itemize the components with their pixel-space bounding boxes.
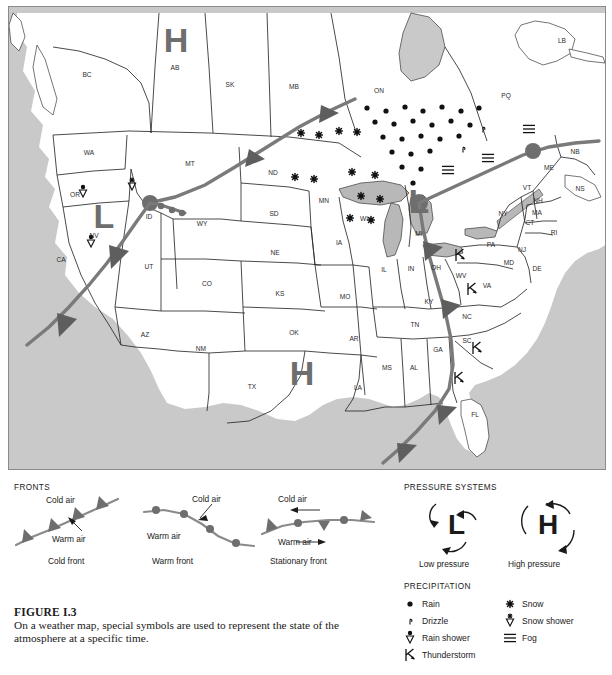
stationary-front-warm-air-label: Warm air (278, 537, 312, 547)
region-label-nm: NM (196, 345, 206, 352)
stationary-front-cold-air-label: Cold air (278, 494, 307, 504)
region-label-mb: MB (289, 83, 299, 90)
region-label-ks: KS (276, 290, 285, 297)
rain-symbol (407, 601, 412, 606)
precipitation-heading: PRECIPITATION (404, 582, 471, 591)
rain-symbol (372, 119, 377, 124)
region-label-on: ON (374, 87, 384, 94)
rain-symbol (408, 151, 413, 156)
region-label-mi: MI (415, 230, 422, 237)
region-label-wa: WA (84, 149, 95, 156)
region-label-mo: MO (340, 293, 351, 300)
region-label-or: OR (70, 191, 80, 198)
warm-front-caption: Warm front (152, 556, 193, 566)
snow_shower-symbol (506, 614, 513, 626)
figure-caption-block: FIGURE I.3 On a weather map, special sym… (14, 606, 386, 646)
snow-symbol (372, 172, 379, 179)
figure-label: FIGURE I.3 (14, 606, 386, 618)
rain-symbol (418, 166, 423, 171)
precip-key-label-rain: Rain (422, 599, 440, 609)
pressure-heading: PRESSURE SYSTEMS (404, 483, 497, 492)
rain-symbol (476, 105, 481, 110)
region-label-ab: AB (171, 64, 180, 71)
stationary-front-diagram (256, 498, 382, 556)
snow-symbol (377, 196, 384, 203)
region-label-wi: WI (360, 215, 368, 222)
region-label-ma: MA (532, 209, 542, 216)
region-label-nd: ND (268, 169, 278, 176)
cold-front-warm-air-label: Warm air (52, 534, 86, 544)
region-label-pa: PA (487, 241, 496, 248)
high-pressure-caption: High pressure (508, 559, 560, 569)
rain_shower-symbol (406, 631, 413, 643)
region-label-pq: PQ (501, 92, 511, 100)
map-canvas: HHLL BCABSKMBONPQLBNBNSMEVTNHMACTRINYPAN… (9, 7, 605, 469)
region-label-nc: NC (462, 313, 472, 320)
drizzle-symbol (410, 619, 412, 624)
region-label-il: IL (381, 266, 387, 273)
fronts-heading: FRONTS (14, 483, 50, 492)
region-label-ns: NS (575, 185, 585, 192)
cold-front-cold-air-label: Cold air (46, 495, 75, 505)
rain-symbol (439, 104, 444, 109)
low-pressure-diagram: L (418, 496, 490, 558)
region-label-nb: NB (570, 148, 580, 155)
rain-symbol (448, 118, 453, 123)
region-label-lb: LB (558, 37, 567, 44)
region-label-mn: MN (319, 197, 329, 204)
region-label-md: MD (504, 259, 514, 266)
region-label-bc: BC (82, 71, 91, 78)
region-label-me: ME (544, 164, 554, 171)
rain-symbol (456, 133, 461, 138)
region-label-al: AL (410, 364, 418, 371)
rain-symbol (383, 108, 388, 113)
low-pressure-caption: Low pressure (419, 559, 469, 569)
region-label-ny: NY (498, 210, 508, 217)
rain-symbol (427, 148, 432, 153)
rain-symbol (437, 136, 442, 141)
region-label-sk: SK (226, 81, 235, 88)
region-label-az: AZ (141, 331, 149, 338)
cold-front-caption: Cold front (48, 556, 84, 566)
region-label-vt: VT (523, 184, 531, 191)
rain-symbol (410, 118, 415, 123)
fog-symbol (504, 634, 516, 641)
region-label-nh: NH (533, 197, 543, 204)
rain-symbol (458, 108, 463, 113)
snow-symbol (292, 174, 299, 181)
region-label-ar: AR (349, 335, 358, 342)
thunderstorm-symbol (406, 649, 414, 661)
region-label-in: IN (408, 265, 415, 272)
stationary-front-caption: Stationary front (270, 556, 327, 566)
cold-front-diagram (10, 493, 140, 555)
region-label-nv: NV (89, 232, 99, 239)
rain-symbol (418, 133, 423, 138)
snow-symbol (358, 193, 365, 200)
rain-symbol (467, 122, 472, 127)
region-label-wy: WY (197, 220, 208, 227)
map-pressure-high: H (164, 21, 189, 59)
snow-symbol (507, 601, 514, 608)
weather-map: HHLL BCABSKMBONPQLBNBNSMEVTNHMACTRINYPAN… (8, 6, 606, 470)
region-label-id: ID (146, 213, 153, 220)
region-label-tn: TN (411, 321, 420, 328)
snow-symbol (354, 129, 361, 136)
region-label-la: LA (354, 384, 363, 391)
region-label-co: CO (202, 280, 212, 287)
region-label-sc: SC (462, 337, 471, 344)
rain-symbol (420, 108, 425, 113)
region-label-ne: NE (270, 249, 280, 256)
snow-symbol (311, 176, 318, 183)
region-label-sd: SD (269, 210, 278, 217)
region-label-ca: CA (56, 256, 66, 263)
rain-symbol (364, 105, 369, 110)
precip-key-label-snow_shower: Snow shower (522, 616, 574, 626)
region-label-de: DE (532, 265, 542, 272)
rain-symbol (380, 134, 385, 139)
figure-caption: On a weather map, special symbols are us… (14, 619, 386, 646)
snow-symbol (347, 215, 354, 222)
region-label-ia: IA (336, 239, 343, 246)
region-label-ky: KY (425, 298, 434, 305)
rain-symbol (389, 149, 394, 154)
region-label-wv: WV (456, 272, 467, 279)
